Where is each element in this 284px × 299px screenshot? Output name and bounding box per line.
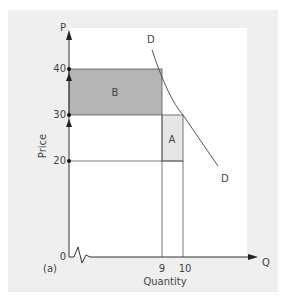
y-axis-symbol: P (60, 22, 66, 33)
plot-area (69, 28, 247, 257)
tick-dot-20 (67, 159, 71, 163)
y-tick-40: 40 (53, 63, 66, 74)
origin-label: 0 (60, 251, 66, 262)
y-tick-30: 30 (53, 109, 66, 120)
region-b-label: B (112, 87, 119, 98)
tick-dot-30 (67, 113, 71, 117)
y-tick-20: 20 (53, 155, 66, 166)
region-a-label: A (169, 134, 176, 145)
x-tick-10: 10 (179, 263, 192, 274)
demand-label-bottom: D (221, 173, 229, 184)
panel-label: (a) (43, 263, 57, 274)
x-axis-symbol: Q (262, 257, 270, 268)
demand-label-top: D (147, 34, 155, 45)
x-axis-arrow-icon (248, 254, 258, 260)
tick-dot-40 (67, 67, 71, 71)
x-axis-title: Quantity (143, 276, 186, 287)
y-axis-title: Price (37, 134, 48, 158)
x-tick-9: 9 (159, 263, 165, 274)
demand-chart: P Q 40 30 20 0 9 10 Quantity (a) Price B… (0, 0, 284, 299)
